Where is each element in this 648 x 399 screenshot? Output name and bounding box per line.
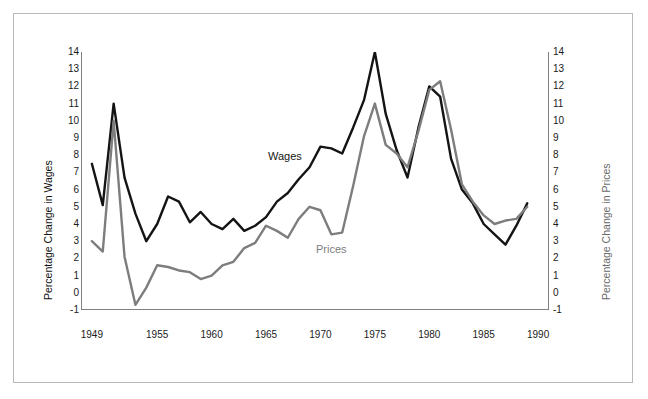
x-tick-label: 1965: [255, 330, 277, 340]
y-tick-label: 2: [553, 253, 559, 263]
x-tick-label: 1990: [527, 330, 549, 340]
y-tick-label: -1: [553, 305, 562, 315]
x-tick-label: 1955: [146, 330, 168, 340]
y-tick-label: 1: [73, 271, 79, 281]
y-tick-label: 9: [73, 133, 79, 143]
y-tick-label: 12: [553, 81, 564, 91]
y-tick-label: 10: [553, 116, 564, 126]
y-tick-label: 7: [553, 167, 559, 177]
right-axis-title: Percentage Change in Prices: [600, 163, 612, 300]
series-label-wages: Wages: [268, 150, 302, 162]
y-tick-label: 5: [553, 202, 559, 212]
x-tick-label: 1970: [309, 330, 331, 340]
y-tick-label: 0: [73, 288, 79, 298]
x-axis-tick-labels: 194919551960196519701975198019851990: [0, 330, 648, 344]
left-axis-title: Percentage Change in Wages: [42, 160, 54, 300]
y-tick-label: 0: [553, 288, 559, 298]
y-tick-label: 13: [68, 64, 79, 74]
y-tick-label: 6: [553, 185, 559, 195]
y-tick-label: 1: [553, 271, 559, 281]
y-tick-label: 12: [68, 81, 79, 91]
y-tick-label: 10: [68, 116, 79, 126]
y-tick-label: 2: [73, 253, 79, 263]
plot-area: [81, 52, 549, 310]
y-tick-label: 7: [73, 167, 79, 177]
y-tick-label: 6: [73, 185, 79, 195]
series-label-prices: Prices: [316, 243, 347, 255]
y-tick-label: 5: [73, 202, 79, 212]
y-tick-label: 11: [553, 99, 563, 109]
series-line-wages: [92, 52, 527, 245]
series-line-prices: [92, 81, 527, 305]
x-tick-label: 1980: [418, 330, 440, 340]
x-tick-label: 1975: [364, 330, 386, 340]
y-tick-label: -1: [70, 305, 79, 315]
left-axis-tick-labels: -101234567891011121314: [57, 52, 79, 310]
y-tick-label: 11: [69, 99, 79, 109]
y-tick-label: 8: [553, 150, 559, 160]
chart-page: Percentage Change in Wages Percentage Ch…: [0, 0, 648, 399]
y-tick-label: 14: [68, 47, 79, 57]
y-tick-label: 13: [553, 64, 564, 74]
x-tick-label: 1949: [81, 330, 103, 340]
y-tick-label: 14: [553, 47, 564, 57]
y-tick-label: 3: [73, 236, 79, 246]
y-tick-label: 8: [73, 150, 79, 160]
right-axis-tick-labels: -101234567891011121314: [553, 52, 575, 310]
line-chart-svg: [81, 52, 549, 310]
y-tick-label: 3: [553, 236, 559, 246]
y-tick-label: 4: [553, 219, 559, 229]
x-tick-label: 1985: [473, 330, 495, 340]
y-tick-label: 4: [73, 219, 79, 229]
y-tick-label: 9: [553, 133, 559, 143]
x-tick-label: 1960: [200, 330, 222, 340]
